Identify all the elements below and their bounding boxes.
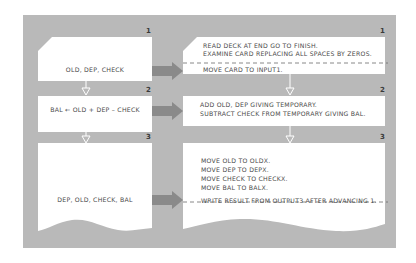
right-card-1-line-3: MOVE CARD TO INPUT1.	[203, 66, 283, 74]
down-arrow-icon	[286, 74, 294, 95]
right-document-3-line-4: MOVE BAL TO BALX.	[201, 184, 268, 192]
step-number-right-2: 2	[380, 86, 385, 94]
right-document-3-line-2: MOVE DEP TO DEPX.	[201, 166, 269, 174]
step-number-right-1: 1	[380, 27, 385, 35]
diagram-shapes	[0, 0, 416, 263]
right-arrow-icon	[152, 62, 183, 80]
step-number-left-2: 2	[146, 86, 151, 94]
right-document-3-line-1: MOVE OLD TO OLDX.	[201, 157, 270, 165]
left-card-1-text: OLD, DEP, CHECK	[38, 66, 152, 74]
left-document-3-text: DEP, OLD, CHECK, BAL	[38, 196, 152, 204]
right-arrow-icon	[152, 191, 183, 209]
step-number-left-3: 3	[146, 133, 151, 141]
right-document-3-line-3: MOVE CHECK TO CHECKX.	[201, 175, 288, 183]
left-card-1	[38, 37, 152, 81]
down-arrow-icon	[82, 132, 90, 143]
left-document-3	[38, 143, 152, 231]
right-document-3-line-5: WRITE RESULT FROM OUTPUT3 AFTER ADVANCIN…	[201, 197, 377, 205]
right-arrow-icon	[152, 102, 183, 120]
right-card-1-line-2: EXAMINE CARD REPLACING ALL SPACES BY ZER…	[203, 50, 372, 58]
down-arrow-icon	[286, 126, 294, 143]
left-box-2-text: BAL ← OLD + DEP – CHECK	[38, 106, 152, 114]
right-box-2-line-2: SUBTRACT CHECK FROM TEMPORARY GIVING BAL…	[200, 110, 366, 118]
down-arrow-icon	[82, 81, 90, 95]
step-number-left-1: 1	[146, 27, 151, 35]
step-number-right-3: 3	[380, 133, 385, 141]
right-box-2-line-1: ADD OLD, DEP GIVING TEMPORARY.	[200, 101, 317, 109]
